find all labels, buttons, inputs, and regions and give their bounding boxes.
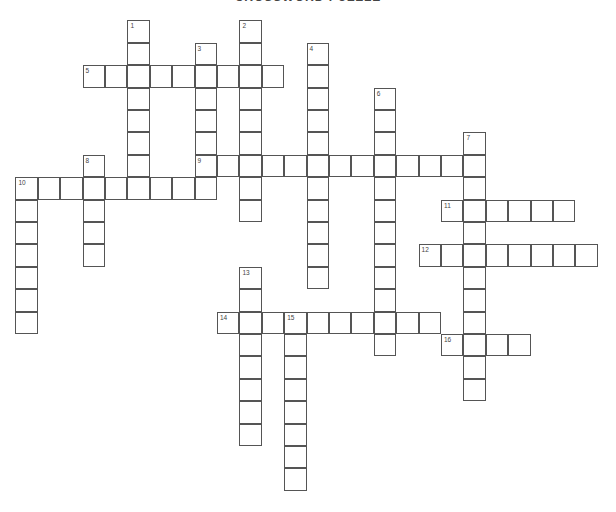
grid-cell[interactable] (172, 177, 194, 199)
grid-cell[interactable]: 8 (83, 155, 105, 177)
grid-cell[interactable] (508, 244, 530, 266)
grid-cell[interactable] (307, 88, 329, 110)
grid-cell[interactable] (217, 65, 239, 87)
grid-cell[interactable] (374, 132, 396, 154)
grid-cell[interactable] (15, 312, 37, 334)
grid-cell[interactable] (239, 132, 261, 154)
grid-cell[interactable] (127, 177, 149, 199)
grid-cell[interactable] (307, 110, 329, 132)
grid-cell[interactable] (307, 312, 329, 334)
grid-cell[interactable] (284, 155, 306, 177)
grid-cell[interactable]: 11 (441, 200, 463, 222)
grid-cell[interactable] (239, 177, 261, 199)
grid-cell[interactable]: 14 (217, 312, 239, 334)
grid-cell[interactable] (351, 155, 373, 177)
grid-cell[interactable] (60, 177, 82, 199)
grid-cell[interactable]: 10 (15, 177, 37, 199)
grid-cell[interactable] (463, 379, 485, 401)
grid-cell[interactable]: 15 (284, 312, 306, 334)
grid-cell[interactable] (307, 155, 329, 177)
grid-cell[interactable] (351, 312, 373, 334)
grid-cell[interactable] (15, 289, 37, 311)
grid-cell[interactable] (463, 200, 485, 222)
grid-cell[interactable] (195, 132, 217, 154)
grid-cell[interactable] (307, 65, 329, 87)
grid-cell[interactable] (463, 356, 485, 378)
grid-cell[interactable] (239, 88, 261, 110)
grid-cell[interactable] (239, 401, 261, 423)
grid-cell[interactable] (329, 155, 351, 177)
grid-cell[interactable] (575, 244, 597, 266)
grid-cell[interactable] (463, 177, 485, 199)
grid-cell[interactable] (307, 222, 329, 244)
grid-cell[interactable] (239, 289, 261, 311)
grid-cell[interactable] (284, 356, 306, 378)
grid-cell[interactable] (463, 244, 485, 266)
grid-cell[interactable] (150, 177, 172, 199)
grid-cell[interactable] (396, 312, 418, 334)
grid-cell[interactable] (486, 244, 508, 266)
grid-cell[interactable]: 9 (195, 155, 217, 177)
grid-cell[interactable] (195, 177, 217, 199)
grid-cell[interactable] (239, 200, 261, 222)
grid-cell[interactable] (374, 222, 396, 244)
grid-cell[interactable] (307, 244, 329, 266)
grid-cell[interactable] (239, 110, 261, 132)
grid-cell[interactable] (195, 65, 217, 87)
grid-cell[interactable] (419, 155, 441, 177)
grid-cell[interactable] (463, 334, 485, 356)
grid-cell[interactable] (463, 155, 485, 177)
grid-cell[interactable] (374, 110, 396, 132)
grid-cell[interactable] (284, 334, 306, 356)
grid-cell[interactable] (15, 267, 37, 289)
grid-cell[interactable] (239, 379, 261, 401)
grid-cell[interactable] (150, 65, 172, 87)
grid-cell[interactable] (284, 379, 306, 401)
grid-cell[interactable] (284, 468, 306, 490)
grid-cell[interactable] (396, 155, 418, 177)
grid-cell[interactable] (486, 200, 508, 222)
grid-cell[interactable] (374, 267, 396, 289)
grid-cell[interactable] (374, 289, 396, 311)
grid-cell[interactable] (195, 88, 217, 110)
grid-cell[interactable] (463, 267, 485, 289)
grid-cell[interactable] (419, 312, 441, 334)
grid-cell[interactable] (374, 334, 396, 356)
grid-cell[interactable] (284, 446, 306, 468)
grid-cell[interactable] (262, 65, 284, 87)
grid-cell[interactable] (374, 200, 396, 222)
grid-cell[interactable] (105, 177, 127, 199)
grid-cell[interactable] (239, 424, 261, 446)
grid-cell[interactable] (463, 222, 485, 244)
grid-cell[interactable] (83, 177, 105, 199)
grid-cell[interactable]: 12 (419, 244, 441, 266)
grid-cell[interactable] (262, 312, 284, 334)
grid-cell[interactable] (553, 200, 575, 222)
grid-cell[interactable]: 3 (195, 43, 217, 65)
grid-cell[interactable] (127, 43, 149, 65)
grid-cell[interactable] (284, 424, 306, 446)
grid-cell[interactable] (374, 177, 396, 199)
grid-cell[interactable] (307, 177, 329, 199)
grid-cell[interactable] (508, 200, 530, 222)
grid-cell[interactable] (441, 244, 463, 266)
grid-cell[interactable] (553, 244, 575, 266)
grid-cell[interactable]: 2 (239, 20, 261, 42)
grid-cell[interactable] (83, 200, 105, 222)
grid-cell[interactable]: 5 (83, 65, 105, 87)
grid-cell[interactable] (239, 43, 261, 65)
grid-cell[interactable] (195, 110, 217, 132)
grid-cell[interactable] (374, 312, 396, 334)
grid-cell[interactable] (307, 267, 329, 289)
grid-cell[interactable] (15, 222, 37, 244)
grid-cell[interactable] (127, 132, 149, 154)
grid-cell[interactable] (329, 312, 351, 334)
grid-cell[interactable] (127, 110, 149, 132)
grid-cell[interactable] (239, 312, 261, 334)
grid-cell[interactable] (374, 244, 396, 266)
grid-cell[interactable] (127, 155, 149, 177)
grid-cell[interactable] (15, 200, 37, 222)
grid-cell[interactable]: 7 (463, 132, 485, 154)
grid-cell[interactable] (83, 222, 105, 244)
grid-cell[interactable] (531, 200, 553, 222)
